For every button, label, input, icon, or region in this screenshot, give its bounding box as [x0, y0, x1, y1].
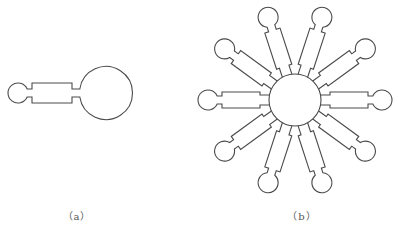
spoke-2 [293, 121, 334, 195]
spoke-0 [321, 90, 393, 110]
spoke-group [198, 5, 392, 196]
caption-b: （b） [287, 208, 316, 223]
figure-b-radial-array [198, 5, 392, 196]
diagram-canvas [0, 0, 398, 229]
spoke-1 [310, 107, 380, 165]
central-hub-circle [269, 74, 321, 126]
spoke-5 [198, 90, 270, 110]
spoke-6 [211, 35, 281, 93]
single-spoke-outline [8, 67, 132, 120]
caption-a: （a） [63, 208, 92, 223]
spoke-3 [256, 121, 297, 195]
spoke-7 [256, 5, 297, 79]
spoke-9 [310, 35, 380, 93]
figure-a-single-resonator [8, 67, 132, 120]
spoke-8 [293, 5, 334, 79]
spoke-4 [211, 107, 281, 165]
